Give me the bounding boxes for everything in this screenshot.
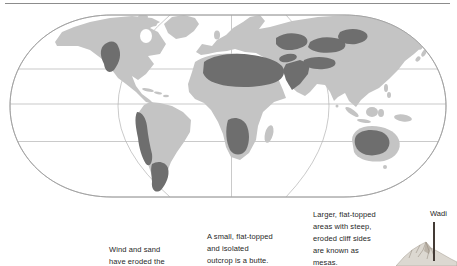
butte-illustration: [396, 241, 457, 266]
arctic-island: [129, 19, 137, 25]
world-desert-map: [0, 6, 457, 212]
tasmania: [383, 165, 387, 169]
encyclopedia-desert-page: { "page": { "title_hidden": "", "figure_…: [0, 0, 457, 266]
caption-wind-erosion: Wind and sand have eroded the: [109, 244, 165, 266]
sulawesi: [378, 109, 384, 117]
new-zealand-island: [415, 174, 423, 185]
desert-region-australian: [355, 130, 390, 155]
borneo: [366, 107, 378, 117]
world-map-svg: [0, 6, 457, 212]
philippines-island: [384, 84, 388, 92]
page-top-rule: [5, 3, 450, 4]
caption-mesa: Larger, flat-topped areas with steep, er…: [313, 209, 376, 266]
sri-lanka: [336, 105, 339, 108]
philippines-island: [387, 92, 391, 98]
hudson-bay: [140, 29, 152, 43]
caption-butte: A small, flat-topped and isolated outcro…: [207, 231, 273, 266]
caribbean-island: [163, 95, 169, 97]
butte-illustration-svg: [396, 241, 457, 266]
wadi-leader-line: [433, 222, 435, 261]
britain: [214, 31, 220, 40]
label-wadi: Wadi: [430, 209, 447, 218]
arctic-island: [149, 22, 157, 27]
